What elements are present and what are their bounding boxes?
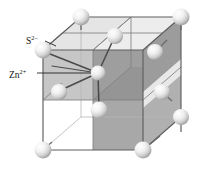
front-quadrant-top-left: [43, 50, 93, 100]
zinc-ion-charge: 2+: [20, 68, 27, 75]
sulfide-ion-label: S2–: [26, 35, 37, 47]
sulfide-sphere-corner-front-bottom-left: [35, 142, 52, 159]
zinc-ion-sphere-group: [91, 66, 106, 81]
sulfide-sphere-corner-back-top-right: [173, 9, 190, 26]
sulfide-sphere-face-right-upper: [147, 44, 163, 60]
zinc-ion-label: Zn2+: [9, 69, 26, 81]
sulfide-sphere-corner-front-bottom-right: [135, 142, 152, 159]
sulfide-sphere-face-front-mid-left: [51, 84, 67, 100]
crystal-lattice-diagram: [0, 0, 202, 178]
sulfide-sphere-corner-back-top-left: [73, 9, 90, 26]
sulfide-ion-charge: 2–: [31, 34, 37, 41]
sulfide-sphere-corner-back-bottom-right: [173, 109, 189, 125]
sulfide-sphere-face-front-center: [91, 102, 108, 119]
sulfide-sphere-face-back-top-center: [107, 28, 123, 44]
zinc-ion-symbol: Zn: [9, 70, 20, 80]
zinc-sphere-tetrahedral-center: [91, 66, 106, 81]
crystal-structure-figure: S2– Zn2+: [0, 0, 202, 178]
sulfide-sphere-face-right-lower: [154, 84, 170, 100]
